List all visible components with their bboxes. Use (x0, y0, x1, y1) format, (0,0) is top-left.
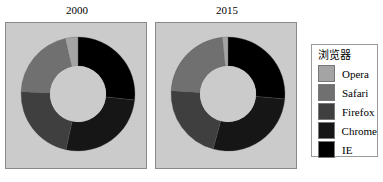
legend-label-safari: Safari (342, 87, 368, 99)
legend-label-opera: Opera (342, 68, 369, 80)
legend-swatch-opera (318, 65, 335, 82)
legend-item-safari: Safari (318, 83, 377, 102)
legend-item-ie: IE (318, 140, 377, 159)
donut-hole (50, 66, 106, 122)
panel-title-2015: 2015 (155, 4, 299, 16)
legend: 浏览器 Opera Safari Firefox Chrome IE (311, 44, 378, 157)
panel-2000 (5, 22, 147, 169)
legend-item-chrome: Chrome (318, 121, 377, 140)
donut-chart-2000 (6, 23, 148, 170)
legend-swatch-firefox (318, 103, 335, 120)
legend-swatch-chrome (318, 122, 335, 139)
donut-chart-2015 (156, 23, 298, 170)
legend-item-opera: Opera (318, 64, 377, 83)
legend-label-ie: IE (342, 144, 352, 156)
panel-2015 (155, 22, 297, 169)
legend-label-firefox: Firefox (342, 106, 374, 118)
donut-hole (200, 66, 256, 122)
legend-label-chrome: Chrome (342, 125, 377, 137)
panel-title-2000: 2000 (5, 4, 149, 16)
legend-swatch-safari (318, 84, 335, 101)
legend-title: 浏览器 (318, 48, 377, 62)
legend-item-firefox: Firefox (318, 102, 377, 121)
legend-swatch-ie (318, 141, 335, 158)
